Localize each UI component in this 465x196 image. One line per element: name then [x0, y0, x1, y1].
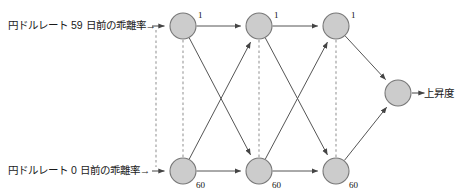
node-t2[interactable] [246, 13, 272, 39]
edge-b2-to-t3 [265, 42, 327, 159]
node-label-b3: 60 [349, 181, 358, 190]
output-label: 上昇度 [424, 88, 454, 99]
edge-t2-to-b3 [265, 38, 327, 155]
input-label-bottom: 円ドルレート 0 日前の乖離率→ [8, 165, 150, 176]
nodes-group [170, 13, 411, 184]
node-t1[interactable] [170, 13, 196, 39]
node-label-t3: 1 [351, 11, 356, 20]
node-label-b1: 60 [196, 181, 205, 190]
io-arrows-group [152, 26, 425, 171]
node-b1[interactable] [170, 158, 196, 184]
node-label-t2: 1 [274, 11, 279, 20]
edge-t3-to-out [345, 36, 385, 80]
node-b2[interactable] [246, 158, 272, 184]
node-label-b2: 60 [272, 181, 281, 190]
node-t3[interactable] [323, 13, 349, 39]
input-label-top: 円ドルレート 59 日前の乖離率→ [8, 20, 156, 31]
node-out[interactable] [385, 80, 411, 106]
edges-group [189, 26, 386, 171]
diagram-canvas: 円ドルレート 59 日前の乖離率→ 円ドルレート 0 日前の乖離率→ 上昇度 1… [0, 0, 465, 196]
edge-b1-to-t2 [189, 42, 250, 159]
edge-t1-to-b2 [189, 38, 250, 155]
node-b3[interactable] [323, 158, 349, 184]
edge-b3-to-out [344, 107, 386, 160]
node-label-t1: 1 [198, 11, 203, 20]
